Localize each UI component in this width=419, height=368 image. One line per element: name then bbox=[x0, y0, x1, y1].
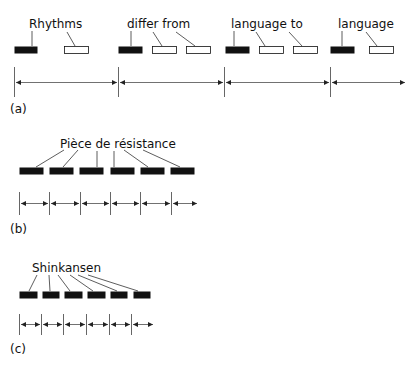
stressed-syllable-block bbox=[88, 292, 106, 299]
stressed-syllable-block bbox=[50, 168, 74, 175]
leader-lines bbox=[29, 275, 138, 291]
word-label: Pièce de résistance bbox=[60, 137, 176, 151]
stressed-syllable-block bbox=[226, 47, 250, 54]
unstressed-syllable-block bbox=[260, 47, 284, 54]
stressed-syllable-block bbox=[111, 168, 135, 175]
stressed-syllable-block bbox=[80, 168, 104, 175]
stressed-syllable-block bbox=[171, 168, 195, 175]
unstressed-syllable-block bbox=[294, 47, 318, 54]
stressed-syllable-block bbox=[43, 292, 60, 299]
rhythm-timing-diagram: Rhythms differ from language to language… bbox=[0, 0, 419, 368]
stressed-syllable-block bbox=[20, 168, 44, 175]
syllable-blocks bbox=[20, 168, 195, 175]
leader-lines bbox=[36, 150, 180, 167]
panel-caption: (c) bbox=[10, 342, 26, 356]
panel-c: Shinkansen (c) bbox=[10, 261, 153, 356]
panel-caption: (a) bbox=[10, 102, 27, 116]
stressed-syllable-block bbox=[20, 292, 38, 299]
stressed-syllable-block bbox=[119, 47, 143, 54]
word-label: Rhythms bbox=[29, 17, 82, 31]
panel-caption: (b) bbox=[10, 222, 27, 236]
word-label: language to bbox=[231, 17, 303, 31]
word-label: Shinkansen bbox=[32, 261, 101, 275]
beat-timeline bbox=[20, 192, 198, 215]
stressed-syllable-block bbox=[141, 168, 165, 175]
unstressed-syllable-block bbox=[187, 47, 211, 54]
word-label: language bbox=[338, 17, 394, 31]
stressed-syllable-block bbox=[15, 47, 38, 54]
unstressed-syllable-block bbox=[65, 47, 89, 54]
leader-lines bbox=[32, 31, 377, 46]
stressed-syllable-block bbox=[65, 292, 83, 299]
unstressed-syllable-block bbox=[370, 47, 394, 54]
word-label: differ from bbox=[127, 17, 190, 31]
stressed-syllable-block bbox=[111, 292, 128, 299]
stressed-syllable-block bbox=[331, 47, 355, 54]
syllable-blocks bbox=[20, 292, 151, 299]
beat-timeline bbox=[20, 314, 154, 335]
panel-b: Pièce de résistance (b) bbox=[10, 137, 197, 236]
syllable-blocks bbox=[15, 47, 394, 54]
stressed-syllable-block bbox=[134, 292, 151, 299]
unstressed-syllable-block bbox=[153, 47, 177, 54]
beat-timeline bbox=[15, 67, 406, 97]
panel-a: Rhythms differ from language to language… bbox=[10, 17, 405, 116]
